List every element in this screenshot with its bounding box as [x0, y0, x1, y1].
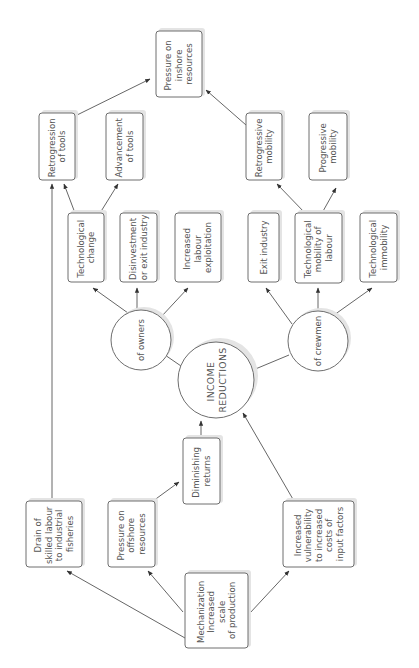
node-label: Exit industry — [259, 220, 269, 274]
node-advancement-of-tools: Advancement of tools — [106, 110, 146, 180]
edge-crewmen-tech-immobility — [334, 288, 372, 315]
node-label: Disinvestment or exit industry — [128, 215, 149, 280]
node-label: of owners — [136, 318, 146, 361]
node-pressure-inshore: Pressure on inshore resources — [156, 28, 205, 97]
edge-mechanization-pressure-offshore — [148, 571, 183, 612]
node-mechanization: Mechanization Increased scale of product… — [185, 570, 251, 648]
node-labour-exploitation: Increased labour exploitation — [175, 210, 224, 282]
node-diminishing-returns: Diminishing returns — [183, 435, 223, 504]
node-label: of crewmen — [313, 316, 323, 367]
edge-mechanization-drain — [67, 571, 185, 638]
node-increased-vulnerability: Increased vulnerability to increased cos… — [283, 498, 357, 567]
node-label: Pressure on offshore resources — [116, 508, 147, 561]
edge-owners-tech-change — [93, 288, 128, 313]
node-progressive-mobility: Progressive mobility — [309, 110, 350, 180]
edge-vulnerability-income — [243, 413, 294, 501]
edge-owners-labour-exploit — [161, 288, 188, 317]
node-drain-of-skilled-labour: Drain of skilled labour to industrial fi… — [26, 498, 85, 567]
node-exit-industry: Exit industry — [248, 210, 282, 282]
edge-mechanization-vulnerability — [250, 571, 289, 613]
edge-pressure-offshore-diminishing — [153, 482, 179, 501]
edge-income-crewmen — [253, 355, 289, 370]
income-reductions-diagram: Pressure on inshore resources Retrogress… — [0, 0, 419, 668]
edge-tech-change-adv-tools — [100, 184, 118, 213]
node-technological-mobility: Technological mobility of labour — [295, 210, 345, 283]
node-technological-immobility: Technological immobility — [360, 210, 400, 282]
node-pressure-offshore: Pressure on offshore resources — [108, 498, 158, 567]
node-of-crewmen: of crewmen — [288, 308, 351, 371]
node-of-owners: of owners — [111, 307, 174, 370]
node-technological-change: Technological change — [68, 210, 107, 282]
edge-tech-mobility-retro-mobility — [277, 184, 305, 213]
node-income-reductions: INCOME REDUCTIONS — [178, 338, 258, 418]
edge-retro-mobility-pressure-inshore — [206, 90, 246, 125]
edge-tech-mobility-prog-mobility — [322, 188, 336, 213]
node-retrogression-of-tools: Retrogression of tools — [39, 110, 78, 180]
edge-tech-change-retro-tools — [64, 184, 75, 213]
node-retrogressive-mobility: Retrogressive mobility — [246, 110, 285, 180]
node-disinvestment: Disinvestment or exit industry — [120, 210, 160, 282]
edge-crewmen-exit — [266, 288, 292, 324]
edge-income-owners — [165, 355, 181, 366]
node-label: Technological immobility — [368, 217, 389, 279]
node-label: Increased vulnerability to increased cos… — [293, 506, 345, 562]
